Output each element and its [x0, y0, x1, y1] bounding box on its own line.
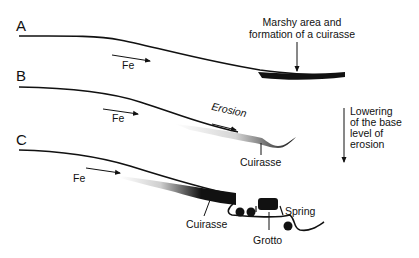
- fe-label-b: Fe: [112, 112, 124, 124]
- cuirasse-label-c: Cuirasse: [186, 218, 227, 230]
- grotto-label: Grotto: [253, 234, 282, 246]
- cuirasse-deposit-b: [175, 124, 296, 148]
- panel-label-b: B: [16, 68, 26, 84]
- panel-b-profile: [19, 87, 296, 155]
- marsh-note: Marshy area and formation of a cuirasse: [242, 16, 362, 40]
- panel-label-c: C: [16, 132, 27, 148]
- cuirasse-deposit-a: [258, 72, 345, 80]
- spring-outlet: [284, 222, 293, 231]
- base-level-note: Lowering of the base level of erosion: [350, 106, 402, 150]
- panel-a-profile: [19, 36, 345, 80]
- fe-label-a: Fe: [122, 59, 134, 71]
- fe-label-c: Fe: [73, 172, 85, 184]
- fe-arrow-c: [86, 168, 120, 173]
- landscape-evolution-diagram: A B C Fe Marshy area and formation of a …: [0, 0, 419, 258]
- marsh-note-line1: Marshy area and: [242, 16, 362, 28]
- grotto-roof: [258, 198, 278, 210]
- cuirasse-label-b: Cuirasse: [240, 156, 281, 168]
- spring-label: Spring: [285, 205, 315, 217]
- base-level-note-line4: erosion: [350, 139, 402, 150]
- panel-label-a: A: [16, 18, 26, 34]
- cuirasse-pointer-c: [204, 200, 210, 216]
- marsh-note-line2: formation of a cuirasse: [242, 28, 362, 40]
